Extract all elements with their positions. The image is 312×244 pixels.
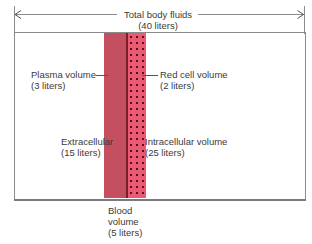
- blood-volume-amount: (5 liters): [108, 227, 142, 238]
- intracellular-amount: (25 liters): [145, 147, 227, 158]
- body-fluids-box: [14, 32, 306, 201]
- arrow-line-right: [198, 14, 304, 15]
- extracellular-text: Extracellular: [61, 136, 113, 147]
- plasma-volume-amount: (3 liters): [31, 80, 96, 91]
- red-cell-volume-text: Red cell volume: [160, 69, 228, 80]
- blood-volume-text-line1: Blood: [108, 205, 142, 216]
- extracellular-label: Extracellular (15 liters): [61, 136, 113, 158]
- red-cell-column: [128, 33, 146, 198]
- red-cell-volume-amount: (2 liters): [160, 80, 228, 91]
- total-fluids-amount: (40 liters): [118, 20, 198, 31]
- left-arrowhead-icon: [14, 10, 22, 19]
- extracellular-amount: (15 liters): [61, 147, 113, 158]
- plasma-leader-line: [96, 75, 108, 76]
- blood-volume-text-line2: volume: [108, 216, 142, 227]
- plasma-volume-text: Plasma volume: [31, 69, 96, 80]
- plasma-volume-label: Plasma volume (3 liters): [31, 69, 96, 91]
- red-cell-leader-line: [142, 75, 158, 76]
- arrow-line-left: [15, 14, 117, 15]
- intracellular-label: Intracellular volume (25 liters): [145, 136, 227, 158]
- blood-volume-label: Blood volume (5 liters): [108, 205, 142, 238]
- red-cell-volume-label: Red cell volume (2 liters): [160, 69, 228, 91]
- right-arrowhead-icon: [297, 10, 305, 19]
- total-fluids-label: Total body fluids: [118, 9, 198, 20]
- plasma-column: [104, 33, 126, 198]
- intracellular-text: Intracellular volume: [145, 136, 227, 147]
- total-fluids-title: Total body fluids (40 liters): [118, 9, 198, 31]
